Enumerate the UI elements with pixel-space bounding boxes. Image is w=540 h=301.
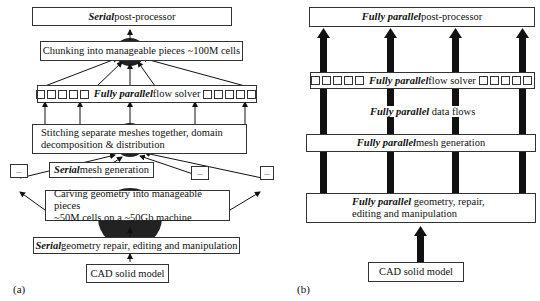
emph: Serial — [54, 164, 80, 176]
text: geometry repair, editing and manipulatio… — [61, 240, 238, 252]
text: geometry, repair, — [411, 196, 485, 207]
text: Stitching separate meshes together, doma… — [41, 127, 223, 139]
emph: Fully parallel — [369, 75, 428, 87]
text: ... — [197, 167, 203, 179]
text: Carving geometry into manageable pieces — [54, 188, 229, 212]
emph: Fully parallel — [362, 11, 421, 23]
a-serial-mesh-generation: Serial mesh generation — [49, 162, 154, 178]
emph: Serial — [89, 11, 115, 23]
text: Chunking into manageable pieces ~100M ce… — [43, 45, 240, 57]
text: ... — [16, 165, 22, 177]
a-carving-box: Carving geometry into manageable pieces … — [45, 190, 230, 221]
emph: Fully parallel — [352, 196, 411, 207]
processor-squares — [203, 90, 258, 99]
a-ellipsis-box: ... — [10, 164, 28, 178]
a-ellipsis-box: ... — [191, 166, 209, 180]
a-cad-solid-model: CAD solid model — [86, 264, 169, 283]
b-flow-solver: Fully parallel flow solver — [310, 72, 535, 89]
processor-squares — [479, 76, 534, 85]
b-parallel-geometry-box: Fully parallel geometry, repair, editing… — [306, 193, 536, 223]
b-parallel-post-processor: Fully parallel post-processor — [309, 7, 535, 27]
text: post-processor — [114, 11, 175, 23]
text: ~50M cells on a ~50Gb machine — [54, 212, 192, 224]
panel-b-label: (b) — [297, 283, 310, 295]
emph: Fully parallel — [357, 137, 416, 149]
a-serial-geometry-repair: Serial geometry repair, editing and mani… — [33, 237, 240, 254]
emph: Fully parallel — [94, 88, 153, 100]
text: flow solver — [428, 75, 476, 87]
a-serial-post-processor: Serial post-processor — [32, 7, 232, 26]
text: CAD solid model — [90, 268, 164, 280]
processor-squares — [36, 90, 91, 99]
text: mesh generation — [80, 164, 149, 176]
text: decomposition & distribution — [41, 139, 165, 151]
emph: Fully parallel — [370, 106, 429, 117]
text: data flows — [429, 106, 475, 117]
b-cad-solid-model: CAD solid model — [368, 262, 464, 282]
text: ... — [264, 167, 270, 179]
text: CAD solid model — [379, 266, 453, 278]
text: mesh generation — [416, 137, 485, 149]
panel-a-label: (a) — [13, 283, 25, 295]
a-flow-solver: Fully parallel flow solver — [37, 85, 257, 103]
a-ellipsis-box: ... — [260, 166, 274, 180]
emph: Serial — [35, 240, 61, 252]
b-parallel-mesh-generation: Fully parallel mesh generation — [306, 134, 536, 152]
text: flow solver — [153, 88, 201, 100]
processor-squares — [311, 76, 366, 85]
text: post-processor — [421, 11, 482, 23]
b-data-flows-label: Fully parallel data flows — [368, 106, 477, 117]
a-stitching-box: Stitching separate meshes together, doma… — [32, 124, 247, 154]
text: editing and manipulation — [352, 208, 457, 220]
a-chunking-box: Chunking into manageable pieces ~100M ce… — [40, 41, 243, 61]
